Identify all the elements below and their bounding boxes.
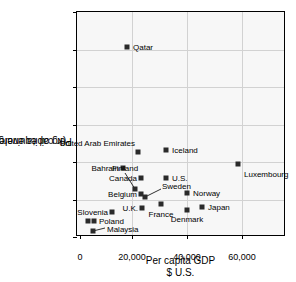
x-axis-title-line1: Per capita GDP [76, 255, 285, 267]
ytick-25000 [73, 50, 77, 51]
point-belgium[interactable] [139, 192, 144, 197]
gridline-x-40000 [187, 12, 188, 235]
point-us[interactable] [164, 176, 169, 181]
label-sweden: Sweden [162, 182, 191, 191]
ytick-20000 [73, 87, 77, 88]
label-belgium: Belgium [108, 190, 137, 199]
point-iceland[interactable] [164, 148, 169, 153]
xtick-20000 [132, 235, 133, 239]
label-denmark: Denmark [171, 215, 203, 224]
plot-area: Qatar United Arab Emirates Iceland Luxem… [76, 11, 285, 236]
gridline-x-60000 [242, 12, 243, 235]
scatter-chart-figure: Per capita energy consumption (kg oil eq… [0, 0, 296, 282]
gridline-y-20000 [77, 87, 284, 88]
x-axis-title: Per capita GDP $ U.S. [76, 255, 285, 279]
label-france: France [149, 210, 174, 219]
y-axis-title: Per capita energy consumption (kg oil eq… [0, 0, 32, 282]
label-slovenia: Slovenia [77, 208, 108, 217]
point-poland-b[interactable] [92, 219, 97, 224]
point-denmark[interactable] [185, 208, 190, 213]
point-luxembourg[interactable] [236, 162, 241, 167]
gridline-y-25000 [77, 50, 284, 51]
label-norway: Norway [193, 189, 220, 198]
point-slovenia[interactable] [110, 210, 115, 215]
point-qatar[interactable] [125, 45, 130, 50]
x-axis-title-line2: $ U.S. [76, 267, 285, 279]
gridline-y-15000 [77, 125, 284, 126]
label-finland: Finland [112, 164, 138, 173]
label-iceland: Iceland [172, 146, 198, 155]
ytick-15000 [73, 125, 77, 126]
label-qatar: Qatar [133, 43, 153, 52]
label-malaysia: Malaysia [107, 225, 139, 234]
point-uk[interactable] [140, 206, 145, 211]
point-japan[interactable] [200, 205, 205, 210]
point-canada[interactable] [139, 176, 144, 181]
point-malaysia[interactable] [91, 229, 96, 234]
xtick-0 [80, 235, 81, 239]
point-norway[interactable] [185, 191, 190, 196]
point-uae[interactable] [135, 150, 140, 155]
ytick-10000 [73, 162, 77, 163]
gridline-y-5000 [77, 200, 284, 201]
label-uk: U.K. [122, 204, 138, 213]
label-uae: United Arab Emirates [59, 139, 135, 148]
ytick-5000 [73, 200, 77, 201]
point-france[interactable] [159, 202, 164, 207]
ytick-30000 [73, 12, 77, 13]
label-canada: Canada [109, 174, 137, 183]
point-poland-a[interactable] [86, 219, 91, 224]
ytick-0 [73, 237, 77, 238]
xtick-40000 [187, 235, 188, 239]
xtick-60000 [242, 235, 243, 239]
label-luxembourg: Luxembourg [244, 170, 288, 179]
label-japan: Japan [208, 203, 230, 212]
